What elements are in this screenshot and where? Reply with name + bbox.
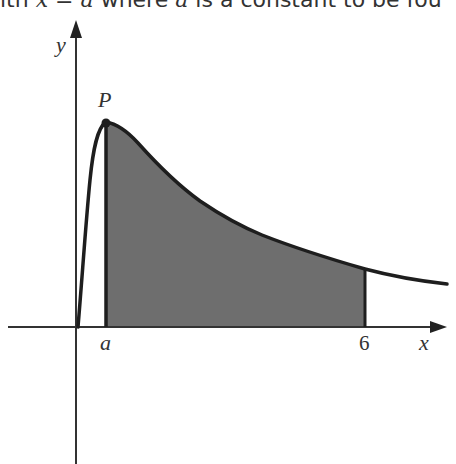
y-axis-label: y [54, 32, 66, 57]
curve-diagram: P y x a 6 [0, 0, 456, 464]
x-axis-arrow-icon [430, 321, 447, 333]
point-p-marker [102, 119, 111, 128]
y-axis-arrow-icon [70, 20, 82, 38]
point-p-label: P [97, 87, 111, 112]
x-axis-label: x [418, 330, 429, 355]
tick-label-6: 6 [359, 331, 370, 355]
tick-label-a: a [100, 330, 111, 355]
